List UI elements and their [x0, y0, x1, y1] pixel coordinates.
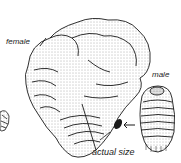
female-label: female	[6, 37, 30, 46]
insect-drawing	[0, 0, 181, 163]
illustration: female male actual size	[0, 0, 181, 163]
female-insect	[25, 18, 150, 157]
arrow-icon	[124, 122, 135, 128]
male-insect	[140, 86, 175, 152]
male-label: male	[152, 70, 169, 79]
actual-size-label: actual size	[92, 147, 135, 157]
partial-specimen-left	[0, 111, 9, 131]
